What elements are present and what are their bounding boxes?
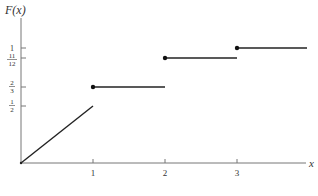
svg-text:12: 12 — [9, 60, 17, 68]
x-tick-label-1: 1 — [91, 168, 96, 178]
step-1-closed-dot — [91, 85, 95, 89]
svg-text:2: 2 — [10, 79, 14, 87]
x-axis-label: x — [308, 157, 314, 169]
y-tick-label-1-2: 1 2 — [9, 98, 15, 114]
origin-point — [20, 162, 22, 164]
y-tick-label-11-12: 11 12 — [7, 52, 17, 68]
step-3-closed-dot — [235, 46, 239, 50]
svg-text:3: 3 — [10, 87, 14, 95]
ramp-segment — [21, 106, 93, 163]
cdf-chart: F(x) x 1 11 12 2 3 1 2 1 2 3 — [0, 0, 318, 196]
svg-text:1: 1 — [10, 98, 14, 106]
svg-text:11: 11 — [9, 52, 16, 60]
step-2-closed-dot — [163, 56, 167, 60]
y-tick-label-2-3: 2 3 — [9, 79, 15, 95]
y-axis-label: F(x) — [4, 3, 26, 17]
x-tick-label-2: 2 — [163, 168, 168, 178]
svg-text:2: 2 — [10, 106, 14, 114]
x-tick-label-3: 3 — [235, 168, 240, 178]
